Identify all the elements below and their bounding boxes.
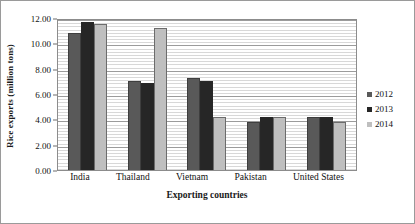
legend-label: 2013: [375, 104, 393, 114]
legend-item[interactable]: 2014: [367, 119, 393, 129]
x-tick-label: Thailand: [116, 172, 150, 182]
legend-swatch-icon: [367, 92, 372, 97]
y-axis-ticks: 0.002.004.006.008.0010.0012.00: [19, 19, 57, 171]
bar[interactable]: [333, 122, 346, 170]
legend-item[interactable]: 2013: [367, 104, 393, 114]
plot-area: [57, 19, 357, 171]
x-tick-label: Pakistan: [234, 172, 266, 182]
bar[interactable]: [141, 83, 154, 170]
y-tick-label: 4.00: [35, 115, 51, 125]
y-tick-label: 2.00: [35, 141, 51, 151]
bar[interactable]: [260, 117, 273, 170]
bar-groups: [58, 20, 356, 170]
bar[interactable]: [307, 117, 320, 170]
bar[interactable]: [187, 78, 200, 170]
legend-swatch-icon: [367, 122, 372, 127]
bar[interactable]: [128, 81, 141, 170]
y-tick-label: 6.00: [35, 90, 51, 100]
y-axis-title-text: Rice exports (million tons): [5, 44, 15, 148]
x-tick-label: Vietnam: [176, 172, 208, 182]
bar-group: [187, 20, 226, 170]
y-tick-label: 8.00: [35, 65, 51, 75]
bar[interactable]: [81, 22, 94, 170]
y-axis-title: Rice exports (million tons): [1, 1, 19, 191]
y-tick-label: 12.00: [31, 14, 51, 24]
y-tick-label: 0.00: [35, 166, 51, 176]
legend-label: 2012: [375, 89, 393, 99]
x-axis-title: Exporting countries: [57, 190, 357, 200]
bar[interactable]: [213, 117, 226, 170]
legend-item[interactable]: 2012: [367, 89, 393, 99]
chart-figure: Rice exports (million tons) 0.002.004.00…: [0, 0, 415, 224]
x-tick-label: India: [70, 172, 90, 182]
legend-label: 2014: [375, 119, 393, 129]
chart-legend: 201220132014: [367, 89, 393, 129]
bar-group: [247, 20, 286, 170]
bar-group: [307, 20, 346, 170]
bar[interactable]: [320, 117, 333, 170]
x-tick-label: United States: [293, 172, 344, 182]
legend-swatch-icon: [367, 107, 372, 112]
y-tick-label: 10.00: [31, 39, 51, 49]
bar[interactable]: [154, 28, 167, 170]
bar[interactable]: [273, 117, 286, 170]
bar[interactable]: [200, 81, 213, 170]
bar[interactable]: [247, 122, 260, 170]
bar[interactable]: [68, 33, 81, 170]
bar-group: [68, 20, 107, 170]
bar[interactable]: [94, 24, 107, 170]
x-axis-ticks: IndiaThailandVietnamPakistanUnited State…: [57, 172, 357, 188]
bar-group: [128, 20, 167, 170]
